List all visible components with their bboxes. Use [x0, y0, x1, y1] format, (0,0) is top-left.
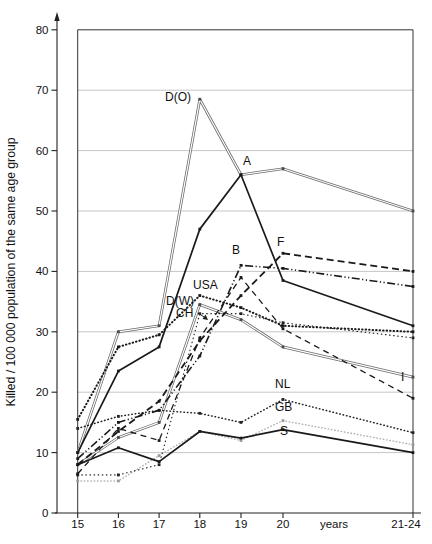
series-marker-D(W) — [198, 303, 201, 306]
y-tick-label-20: 20 — [36, 386, 49, 398]
killed-per-100000-by-age-line-chart: D(O)D(W)GBCHNLUSAIBFSA010203040506070801… — [0, 0, 432, 544]
series-label-A: A — [243, 154, 251, 168]
y-tick-label-70: 70 — [36, 84, 49, 96]
series-label-GB: GB — [275, 400, 292, 414]
series-marker-NL — [198, 412, 201, 415]
series-marker-CH — [412, 336, 415, 339]
series-marker-B — [282, 267, 285, 270]
series-label-CH: CH — [176, 306, 193, 320]
x-tick-label-21-24: 21-24 — [391, 518, 421, 530]
series-line-NL — [78, 399, 413, 432]
y-tick-label-50: 50 — [36, 205, 49, 217]
series-marker-I — [240, 276, 243, 279]
series-line-D(O) — [78, 99, 413, 452]
series-label-USA: USA — [193, 278, 218, 292]
series-marker-GB — [158, 454, 161, 457]
ch-pointer-arrowhead — [203, 315, 209, 320]
series-marker-I — [282, 327, 285, 330]
series-marker-CH — [240, 312, 243, 315]
series-marker-S — [198, 430, 201, 433]
series-marker-GB — [240, 439, 243, 442]
y-tick-label-30: 30 — [36, 326, 49, 338]
y-tick-label-10: 10 — [36, 447, 49, 459]
series-marker-A — [282, 279, 285, 282]
series-marker-F — [198, 339, 201, 342]
series-marker-A — [198, 228, 201, 231]
series-marker-CH — [117, 474, 120, 477]
x-tick-label-20: 20 — [277, 518, 290, 530]
series-marker-CH — [282, 321, 285, 324]
series-marker-USA — [117, 346, 120, 349]
series-marker-F — [158, 400, 161, 403]
y-axis-title: Killed / 100 000 population of the same … — [4, 137, 18, 406]
series-marker-NL — [412, 431, 415, 434]
series-marker-I — [76, 472, 79, 475]
series-marker-GB — [76, 480, 79, 483]
series-marker-A — [117, 370, 120, 373]
series-line-B — [78, 265, 413, 458]
y-tick-label-40: 40 — [36, 265, 49, 277]
series-marker-D(W) — [158, 421, 161, 424]
series-line-core-D(O) — [78, 99, 413, 452]
series-label-NL: NL — [275, 377, 291, 391]
series-marker-B — [117, 421, 120, 424]
series-marker-NL — [117, 415, 120, 418]
y-tick-label-80: 80 — [36, 24, 49, 36]
series-marker-GB — [117, 480, 120, 483]
series-marker-A — [76, 451, 79, 454]
series-marker-USA — [240, 306, 243, 309]
series-marker-NL — [282, 398, 285, 401]
series-marker-D(O) — [412, 210, 415, 213]
y-axis-arrow — [54, 12, 59, 21]
series-marker-CH — [158, 463, 161, 466]
series-label-B: B — [232, 243, 240, 257]
series-marker-D(W) — [117, 436, 120, 439]
x-tick-label-17: 17 — [153, 518, 166, 530]
series-marker-I — [158, 439, 161, 442]
y-tick-label-60: 60 — [36, 145, 49, 157]
series-marker-D(O) — [282, 167, 285, 170]
series-marker-B — [198, 355, 201, 358]
series-marker-USA — [76, 418, 79, 421]
x-tick-label-15: 15 — [71, 518, 84, 530]
series-marker-NL — [76, 427, 79, 430]
series-line-USA — [78, 296, 413, 420]
series-marker-S — [158, 460, 161, 463]
series-marker-A — [240, 173, 243, 176]
series-marker-D(W) — [240, 318, 243, 321]
series-marker-S — [76, 463, 79, 466]
series-label-D(O): D(O) — [165, 90, 191, 104]
series-marker-NL — [240, 421, 243, 424]
series-marker-D(O) — [198, 98, 201, 101]
series-marker-USA — [198, 294, 201, 297]
series-marker-D(O) — [117, 330, 120, 333]
series-marker-B — [158, 409, 161, 412]
series-marker-S — [412, 451, 415, 454]
series-label-F: F — [277, 235, 284, 249]
x-tick-label-18: 18 — [193, 518, 206, 530]
series-marker-F — [240, 294, 243, 297]
series-marker-F — [412, 270, 415, 273]
series-marker-B — [240, 264, 243, 267]
y-tick-label-0: 0 — [42, 507, 48, 519]
x-tick-label-19: 19 — [235, 518, 248, 530]
series-marker-S — [117, 446, 120, 449]
series-marker-F — [117, 430, 120, 433]
series-marker-D(O) — [158, 324, 161, 327]
series-marker-B — [76, 457, 79, 460]
series-marker-A — [412, 324, 415, 327]
series-marker-I — [117, 427, 120, 430]
series-marker-USA — [412, 330, 415, 333]
series-marker-A — [158, 346, 161, 349]
series-marker-USA — [158, 333, 161, 336]
series-marker-I — [412, 397, 415, 400]
series-marker-S — [240, 437, 243, 440]
series-marker-D(W) — [282, 346, 285, 349]
series-marker-D(W) — [412, 376, 415, 379]
series-marker-GB — [412, 443, 415, 446]
x-tick-label-16: 16 — [112, 518, 125, 530]
series-marker-F — [282, 252, 285, 255]
series-label-S: S — [280, 424, 288, 438]
series-marker-GB — [282, 419, 285, 422]
series-marker-B — [412, 285, 415, 288]
